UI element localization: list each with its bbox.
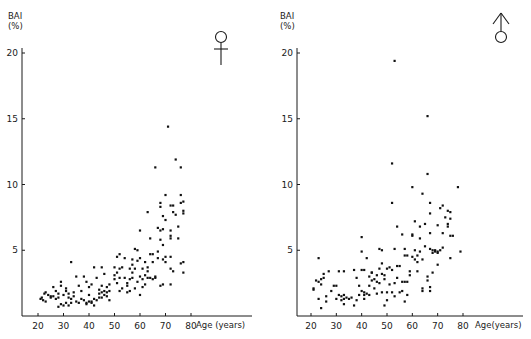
data-point bbox=[175, 158, 177, 160]
data-point bbox=[368, 285, 370, 287]
data-point bbox=[126, 285, 128, 287]
data-point bbox=[444, 216, 446, 218]
male-symbol-icon bbox=[493, 13, 509, 43]
data-point bbox=[432, 249, 434, 251]
data-point bbox=[55, 290, 57, 292]
data-point bbox=[182, 272, 184, 274]
data-point bbox=[426, 115, 428, 117]
data-point bbox=[399, 291, 401, 293]
data-point bbox=[353, 269, 355, 271]
data-point bbox=[371, 272, 373, 274]
data-point bbox=[459, 250, 461, 252]
data-point bbox=[119, 290, 121, 292]
data-point bbox=[149, 277, 151, 279]
data-point bbox=[421, 287, 423, 289]
left-axes: 510152020304050607080 bbox=[7, 48, 252, 331]
data-point bbox=[416, 254, 418, 256]
data-point bbox=[52, 295, 54, 297]
data-point bbox=[323, 273, 325, 275]
x-tick-label: 70 bbox=[160, 321, 172, 331]
y-tick-label: 5 bbox=[12, 245, 18, 255]
female-symbol-icon bbox=[214, 32, 228, 66]
male-scatter-panel: BAI (%) Age(years) 510152020304050607080 bbox=[280, 11, 523, 331]
data-point bbox=[62, 304, 64, 306]
y-axis-unit: (%) bbox=[8, 21, 23, 31]
data-point bbox=[170, 256, 172, 258]
x-axis-title: Age (years) bbox=[196, 320, 245, 330]
data-point bbox=[426, 173, 428, 175]
data-point bbox=[371, 279, 373, 281]
data-point bbox=[363, 291, 365, 293]
data-point bbox=[340, 299, 342, 301]
data-point bbox=[75, 300, 77, 302]
data-point bbox=[96, 299, 98, 301]
data-point bbox=[88, 286, 90, 288]
data-point bbox=[424, 245, 426, 247]
data-point bbox=[358, 294, 360, 296]
data-point bbox=[376, 274, 378, 276]
data-point bbox=[129, 290, 131, 292]
data-point bbox=[162, 283, 164, 285]
data-point bbox=[106, 291, 108, 293]
data-point bbox=[101, 291, 103, 293]
data-point bbox=[363, 298, 365, 300]
x-tick-label: 60 bbox=[407, 321, 419, 331]
right-axes: 510152020304050607080 bbox=[282, 48, 523, 331]
data-point bbox=[141, 268, 143, 270]
data-point bbox=[108, 290, 110, 292]
data-point bbox=[414, 258, 416, 260]
data-point bbox=[315, 279, 317, 281]
data-point bbox=[381, 249, 383, 251]
data-point bbox=[85, 303, 87, 305]
data-point bbox=[399, 265, 401, 267]
data-point bbox=[437, 252, 439, 254]
data-point bbox=[45, 291, 47, 293]
data-point bbox=[386, 291, 388, 293]
data-point bbox=[381, 273, 383, 275]
data-point bbox=[119, 253, 121, 255]
data-point bbox=[119, 277, 121, 279]
data-point bbox=[139, 257, 141, 259]
data-point bbox=[378, 248, 380, 250]
data-point bbox=[396, 277, 398, 279]
data-point bbox=[373, 278, 375, 280]
data-point bbox=[108, 299, 110, 301]
data-point bbox=[98, 296, 100, 298]
data-point bbox=[340, 295, 342, 297]
data-point bbox=[396, 225, 398, 227]
data-point bbox=[106, 286, 108, 288]
data-point bbox=[172, 204, 174, 206]
data-point bbox=[131, 258, 133, 260]
data-point bbox=[343, 303, 345, 305]
data-point bbox=[396, 265, 398, 267]
data-point bbox=[378, 268, 380, 270]
data-point bbox=[432, 272, 434, 274]
data-point bbox=[57, 296, 59, 298]
data-point bbox=[157, 227, 159, 229]
data-point bbox=[180, 194, 182, 196]
data-point bbox=[378, 282, 380, 284]
data-point bbox=[404, 300, 406, 302]
data-point bbox=[325, 300, 327, 302]
data-point bbox=[447, 210, 449, 212]
data-point bbox=[325, 295, 327, 297]
x-tick-label: 20 bbox=[32, 321, 44, 331]
data-point bbox=[345, 296, 347, 298]
data-point bbox=[333, 285, 335, 287]
data-point bbox=[93, 304, 95, 306]
data-point bbox=[343, 270, 345, 272]
female-scatter-panel: BAI (%) Age (years) 51015202030405060708… bbox=[7, 11, 252, 331]
data-point bbox=[442, 247, 444, 249]
data-point bbox=[394, 295, 396, 297]
data-point bbox=[159, 285, 161, 287]
data-point bbox=[363, 269, 365, 271]
data-point bbox=[381, 262, 383, 264]
data-point bbox=[353, 304, 355, 306]
data-point bbox=[70, 261, 72, 263]
data-point bbox=[134, 268, 136, 270]
data-point bbox=[78, 302, 80, 304]
data-point bbox=[116, 272, 118, 274]
data-point bbox=[62, 294, 64, 296]
data-point bbox=[126, 282, 128, 284]
data-point bbox=[106, 295, 108, 297]
